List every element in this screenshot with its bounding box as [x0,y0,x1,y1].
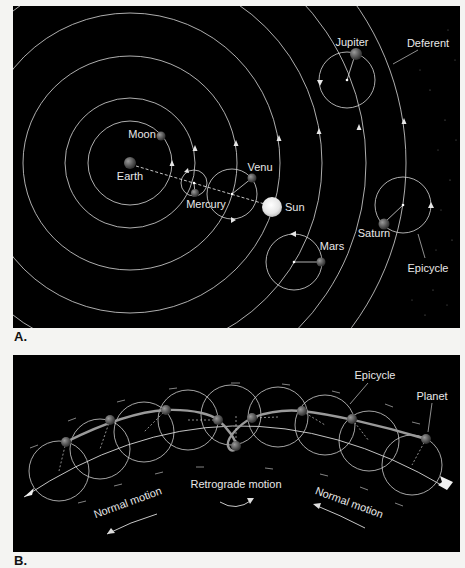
panel-b-letter: B. [14,553,27,568]
planet-pointer [428,403,432,432]
deferent-pointer [393,50,418,64]
panel-a-geocentric-model: Moon Earth Mercury Venu Sun Mars Jupiter… [13,6,460,328]
planet-path [66,410,426,451]
mercury-label: Mercury [186,198,226,210]
earth-body [124,157,136,169]
panel-a-letter: A. [14,329,27,344]
deferent-arrow-right [438,476,453,490]
jupiter-label: Jupiter [335,36,368,48]
moon-label: Moon [128,128,156,140]
deferent-circles [13,6,406,328]
retrograde-motion-label: Retrograde motion [190,478,281,490]
jupiter-body [350,48,362,60]
sun-label: Sun [285,201,305,213]
normal-motion-label-right: Normal motion [314,484,385,520]
planet-body [421,434,431,444]
venus-body [248,174,257,183]
geocentric-diagram: Moon Earth Mercury Venu Sun Mars Jupiter… [13,6,460,328]
sun-body [262,197,282,217]
mars-epicycle [266,231,322,290]
retrograde-arrow [220,500,252,507]
moon-body [157,132,166,141]
planet-label: Planet [416,390,447,402]
venus-label: Venu [247,161,272,173]
epicycle-pointer [350,383,368,404]
normal-motion-label-left: Normal motion [92,484,163,520]
retrograde-diagram: Epicycle Planet Retrograde motion Normal… [13,355,460,552]
deferent-direction-arrows [170,118,407,166]
saturn-label: Saturn [358,227,390,239]
mars-label: Mars [320,240,345,252]
epicycle-pointer [418,234,425,258]
mars-body [317,258,326,267]
epicycle-label: Epicycle [355,369,396,381]
jupiter-epicycle [317,52,375,108]
panel-b-retrograde-motion: Epicycle Planet Retrograde motion Normal… [13,355,460,552]
earth-label: Earth [117,170,143,182]
deferent-label: Deferent [407,37,449,49]
epicycle-label: Epicycle [408,262,449,274]
mercury-body [191,189,199,197]
normal-motion-arrow-left [107,514,157,534]
